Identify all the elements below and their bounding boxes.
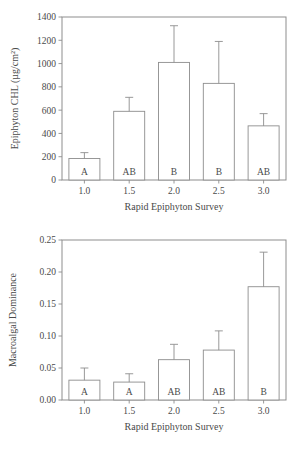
y-axis-title: Epiphyton CHL (µg/cm²) xyxy=(9,48,21,150)
y-axis-tick-label: 0 xyxy=(51,175,56,185)
y-axis-tick-label: 200 xyxy=(42,152,57,162)
y-axis-tick-label: 0.25 xyxy=(39,235,56,245)
significance-letter: A xyxy=(126,387,133,397)
significance-letter: B xyxy=(216,167,222,177)
chart-panel-top: 0200400600800100012001400Epiphyton CHL (… xyxy=(0,0,300,226)
significance-letter: B xyxy=(260,387,266,397)
x-axis-tick-label: 2.5 xyxy=(213,406,225,416)
x-axis-tick-label: 1.5 xyxy=(123,406,135,416)
bar xyxy=(248,287,279,400)
significance-letter: AB xyxy=(123,167,136,177)
y-axis-tick-label: 1000 xyxy=(37,59,56,69)
bar-chart-epiphyton-chl: 0200400600800100012001400Epiphyton CHL (… xyxy=(0,0,300,226)
significance-letter: A xyxy=(81,167,88,177)
significance-letter: AB xyxy=(167,387,180,397)
x-axis-tick-label: 3.0 xyxy=(258,186,270,196)
bar xyxy=(203,83,234,180)
y-axis-tick-label: 400 xyxy=(42,129,57,139)
y-axis-tick-label: 600 xyxy=(42,106,57,116)
significance-letter: AB xyxy=(257,167,270,177)
x-axis-title: Rapid Epiphyton Survey xyxy=(125,421,224,432)
y-axis-tick-label: 0.20 xyxy=(39,267,56,277)
x-axis-tick-label: 2.0 xyxy=(168,186,180,196)
y-axis-tick-label: 0.15 xyxy=(39,299,56,309)
x-axis-title: Rapid Epiphyton Survey xyxy=(125,201,224,212)
x-axis-tick-label: 1.0 xyxy=(78,186,90,196)
y-axis-tick-label: 1200 xyxy=(37,36,56,46)
figure-container: 0200400600800100012001400Epiphyton CHL (… xyxy=(0,0,300,453)
y-axis-tick-label: 0.05 xyxy=(39,363,56,373)
x-axis-tick-label: 2.0 xyxy=(168,406,180,416)
chart-panel-bottom: 0.000.050.100.150.200.25Macroalgal Domin… xyxy=(0,227,300,453)
y-axis-title: Macroalgal Dominance xyxy=(7,272,18,367)
significance-letter: AB xyxy=(212,387,225,397)
y-axis-tick-label: 1400 xyxy=(37,12,56,22)
significance-letter: B xyxy=(171,167,177,177)
x-axis-tick-label: 2.5 xyxy=(213,186,225,196)
significance-letter: A xyxy=(81,387,88,397)
bar xyxy=(159,62,190,180)
y-axis-tick-label: 0.00 xyxy=(39,395,56,405)
y-axis-tick-label: 0.10 xyxy=(39,331,56,341)
x-axis-tick-label: 3.0 xyxy=(258,406,270,416)
bar-chart-macroalgal-dominance: 0.000.050.100.150.200.25Macroalgal Domin… xyxy=(0,227,300,453)
x-axis-tick-label: 1.5 xyxy=(123,186,135,196)
y-axis-tick-label: 800 xyxy=(42,82,57,92)
x-axis-tick-label: 1.0 xyxy=(78,406,90,416)
